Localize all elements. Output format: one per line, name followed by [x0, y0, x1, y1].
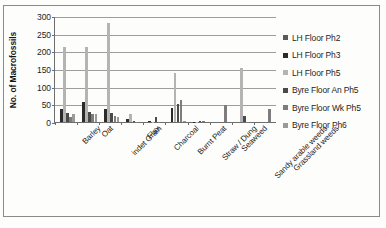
bar [107, 23, 110, 122]
y-axis-title: No. of Macrofossils [8, 17, 21, 123]
bar [183, 121, 186, 122]
legend-swatch-icon [283, 88, 288, 93]
bar [95, 114, 98, 122]
legend-swatch-icon [283, 53, 288, 58]
bar-group [254, 17, 276, 122]
bar-group [232, 17, 254, 122]
legend-swatch-icon [283, 123, 288, 128]
bar [63, 47, 66, 122]
bar-groups [55, 17, 276, 122]
bar [224, 105, 227, 122]
legend-item[interactable]: Byre Floor Wk Ph5 [283, 99, 383, 117]
bar [72, 114, 75, 122]
legend-item[interactable]: LH Floor Ph5 [283, 64, 383, 82]
legend-label: Byre Floor An Ph5 [292, 85, 358, 95]
legend-swatch-icon [283, 105, 288, 110]
y-axis-tick-label: 150 [37, 65, 51, 75]
bar-group [77, 17, 99, 122]
legend-item[interactable]: Byre Floor An Ph5 [283, 82, 383, 100]
legend-item[interactable]: LH Floor Ph3 [283, 47, 383, 65]
bar-group [165, 17, 187, 122]
bar-group [143, 17, 165, 122]
bar [240, 68, 243, 122]
bar-group [188, 17, 210, 122]
macrofossil-bar-chart-figure: No. of Macrofossils 050100150200250300 B… [0, 0, 386, 228]
legend-swatch-icon [283, 70, 288, 75]
y-axis-tick-label: 200 [37, 47, 51, 57]
y-axis-tick-label: 100 [37, 83, 51, 93]
y-axis-tick-label: 50 [42, 100, 51, 110]
legend-swatch-icon [283, 35, 288, 40]
legend-label: LH Floor Ph5 [292, 68, 340, 78]
x-axis-label: Barley [81, 124, 103, 146]
bar [85, 47, 88, 122]
legend-item[interactable]: Byre Floor Ph6 [283, 117, 383, 135]
bar-group [210, 17, 232, 122]
legend-label: LH Floor Ph2 [292, 33, 340, 43]
bar [180, 100, 183, 122]
plot-area: 050100150200250300 [54, 17, 276, 123]
legend-item[interactable]: LH Floor Ph2 [283, 29, 383, 47]
y-axis-tick-label: 0 [46, 118, 51, 128]
bar-group [121, 17, 143, 122]
y-axis-tick-label: 250 [37, 30, 51, 40]
legend-label: Byre Floor Ph6 [292, 120, 347, 130]
bar [202, 121, 205, 122]
bar [268, 109, 271, 122]
legend-label: Byre Floor Wk Ph5 [292, 103, 361, 113]
chart-legend: LH Floor Ph2LH Floor Ph3LH Floor Ph5Byre… [283, 29, 383, 134]
bar-group [55, 17, 77, 122]
y-axis-tick-label: 300 [37, 12, 51, 22]
x-axis-label: Oat [100, 124, 115, 139]
legend-label: LH Floor Ph3 [292, 50, 340, 60]
bar [117, 117, 120, 122]
bar-group [99, 17, 121, 122]
x-axis-labels: BarleyOatindet GrainFlaxCharcoalBurnt Pe… [54, 124, 276, 219]
